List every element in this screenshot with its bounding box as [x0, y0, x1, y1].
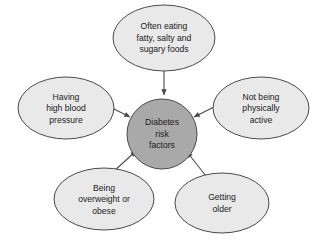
- node-center[interactable]: Diabetes risk factors: [127, 99, 197, 169]
- node-inactivity-label-line-1: Not being: [243, 92, 280, 102]
- node-age-label-line-2: older: [212, 204, 231, 214]
- node-overweight-label-line-3: obese: [92, 206, 116, 216]
- node-diet-label-line-1: Often eating: [141, 21, 188, 31]
- node-inactivity-label-line-3: active: [250, 115, 273, 125]
- node-overweight-label-line-2: overweight or: [78, 194, 130, 204]
- node-diet-label-line-3: sugary foods: [139, 44, 188, 54]
- node-blood-pressure-label-line-2: high blood: [46, 103, 86, 113]
- node-diet[interactable]: Often eating fatty, salty and sugary foo…: [113, 5, 215, 71]
- node-center-label-line-3: factors: [149, 140, 175, 150]
- node-age[interactable]: Getting older: [175, 173, 269, 233]
- node-age-label-line-1: Getting: [208, 192, 236, 202]
- diabetes-risk-factors-diagram: Often eating fatty, salty and sugary foo…: [0, 0, 321, 242]
- node-blood-pressure-label-line-3: pressure: [49, 115, 83, 125]
- node-inactivity[interactable]: Not being physically active: [213, 77, 309, 139]
- diagram-canvas: Often eating fatty, salty and sugary foo…: [0, 0, 321, 242]
- node-overweight[interactable]: Being overweight or obese: [54, 168, 154, 230]
- node-blood-pressure[interactable]: Having high blood pressure: [18, 77, 114, 139]
- node-center-label-line-1: Diabetes: [145, 117, 179, 127]
- node-center-label-line-2: risk: [155, 129, 169, 139]
- node-diet-label-line-2: fatty, salty and: [137, 33, 192, 43]
- node-blood-pressure-label-line-1: Having: [53, 92, 80, 102]
- node-overweight-label-line-1: Being: [93, 183, 115, 193]
- node-inactivity-label-line-2: physically: [242, 103, 280, 113]
